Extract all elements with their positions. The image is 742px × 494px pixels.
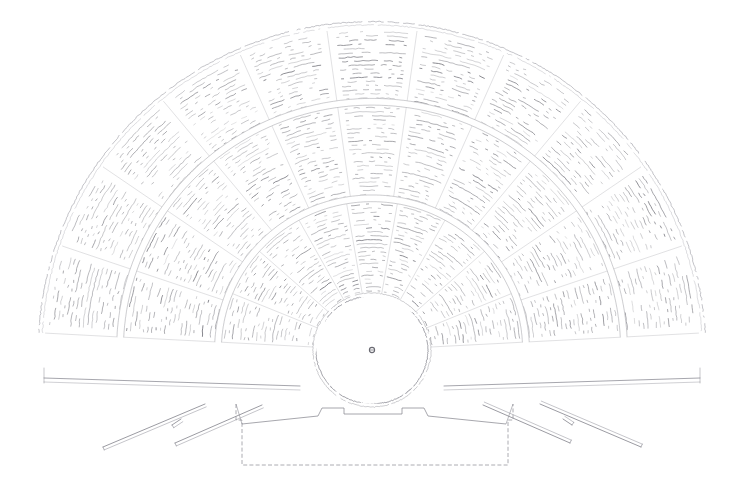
theatre-plan-drawing [0,0,742,494]
plan-canvas [0,0,742,494]
